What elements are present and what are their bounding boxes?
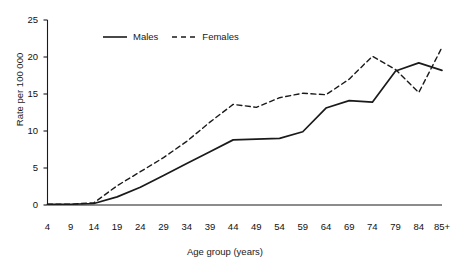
x-tick-label: 85+ [426, 221, 455, 232]
y-tick-label: 20 [8, 51, 38, 62]
series-layer [48, 47, 443, 204]
series-line-males [48, 63, 443, 204]
series-line-females [48, 47, 443, 204]
y-tick-label: 5 [8, 162, 38, 173]
y-tick-label: 0 [8, 199, 38, 210]
y-tick-label: 25 [8, 14, 38, 25]
chart-axes [48, 20, 443, 205]
y-tick-label: 10 [8, 125, 38, 136]
y-axis-ticks [44, 20, 48, 205]
y-tick-label: 15 [8, 88, 38, 99]
